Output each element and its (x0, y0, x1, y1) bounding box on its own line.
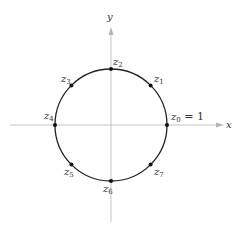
label-z7: z7 (153, 166, 164, 179)
y-axis-label: y (106, 11, 113, 22)
unit-circle-diagram: x y z0 = 1 z1 z2 z3 z4 z5 z6 z7 (0, 0, 244, 225)
label-z1: z1 (153, 73, 164, 86)
label-z6: z6 (102, 183, 113, 196)
point-z7 (149, 163, 153, 167)
label-z0: z0 = 1 (170, 110, 204, 124)
point-z2 (109, 67, 113, 71)
label-z5: z5 (63, 166, 74, 179)
point-z6 (109, 179, 113, 183)
label-z3: z3 (60, 73, 71, 86)
label-z4: z4 (43, 110, 54, 123)
point-z5 (69, 163, 73, 167)
point-z4 (53, 123, 57, 127)
x-axis-arrow-icon (216, 123, 224, 128)
point-z0 (165, 123, 169, 127)
y-axis-arrow-icon (109, 27, 114, 35)
x-axis-label: x (226, 119, 232, 130)
label-z2: z2 (112, 56, 123, 69)
point-z1 (149, 83, 153, 87)
